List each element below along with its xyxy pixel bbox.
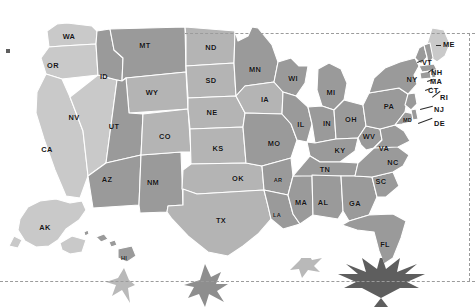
state-label-AL: AL: [318, 199, 329, 206]
state-label-SC: SC: [376, 178, 387, 185]
state-label-TN: TN: [320, 166, 331, 173]
state-label-ID: ID: [100, 73, 108, 80]
state-label-KY: KY: [335, 147, 346, 154]
state-label-NC: NC: [387, 159, 398, 166]
state-label-VT: VT: [422, 59, 432, 66]
state-label-ME: ME: [443, 41, 455, 48]
state-label-MN: MN: [249, 66, 261, 73]
state-label-IL: IL: [297, 121, 304, 128]
cannabis-leaf-decoration: [0, 258, 475, 307]
state-label-TX: TX: [216, 217, 226, 224]
state-label-WI: WI: [288, 75, 298, 82]
state-label-CT: CT: [428, 87, 439, 94]
state-label-SD: SD: [206, 77, 217, 84]
state-label-HI: HI: [121, 256, 127, 262]
state-label-MS: MA: [295, 199, 307, 206]
state-label-AZ: AZ: [102, 176, 113, 183]
state-label-MO: MO: [268, 140, 281, 147]
state-label-CA: CA: [41, 146, 52, 153]
state-label-AK: AK: [39, 224, 50, 231]
state-label-RI: RI: [440, 94, 448, 101]
state-label-IA: IA: [261, 96, 269, 103]
state-label-LA: LA: [273, 213, 281, 219]
state-label-IN: IN: [323, 120, 331, 127]
state-label-DE: DE: [434, 120, 445, 127]
state-label-NM: NM: [147, 179, 159, 186]
state-shape-OK: [182, 163, 264, 194]
state-label-NH: NH: [431, 69, 442, 76]
state-label-KS: KS: [213, 145, 224, 152]
state-label-AR: AR: [274, 178, 282, 184]
leaf-shape-4: [338, 258, 425, 298]
state-label-WV: WV: [363, 133, 376, 140]
state-label-OK: OK: [232, 175, 244, 182]
leader-line-ME: [436, 45, 441, 46]
map-canvas: WAORCANVIDMTWYUTAZNMCONDSDNEKSOKTXMNIAMO…: [0, 0, 475, 307]
state-label-VA: VA: [379, 145, 389, 152]
state-label-OR: OR: [47, 62, 59, 69]
dashed-rule-top: [185, 33, 475, 34]
leaf-shape-3: [184, 264, 228, 307]
state-label-MD: MD: [403, 118, 412, 124]
state-label-NE: NE: [207, 109, 218, 116]
dashed-rule-right: [469, 33, 470, 281]
state-shape-FL: [342, 214, 406, 264]
dashed-rule-bottom: [0, 281, 475, 282]
state-shape-AL: [312, 175, 343, 219]
state-label-FL: FL: [380, 241, 390, 248]
state-label-ND: ND: [205, 44, 216, 51]
state-label-MA: MA: [430, 78, 442, 85]
state-label-WY: WY: [146, 89, 159, 96]
state-label-WA: WA: [63, 33, 76, 40]
leaf-shape-2: [106, 268, 135, 303]
state-label-GA: GA: [349, 200, 361, 207]
state-label-PA: PA: [384, 103, 394, 110]
state-label-CO: CO: [159, 133, 171, 140]
state-label-MT: MT: [139, 42, 150, 49]
state-label-NV: NV: [69, 114, 80, 121]
state-label-MI: MI: [327, 89, 336, 96]
leaf-shape-5: [374, 298, 388, 307]
state-label-OH: OH: [345, 116, 357, 123]
state-label-UT: UT: [109, 123, 120, 130]
leaf-shape-1: [290, 258, 322, 278]
state-label-NY: NY: [407, 76, 418, 83]
state-label-NJ: NJ: [434, 106, 444, 113]
state-shape-NM: [139, 152, 183, 213]
